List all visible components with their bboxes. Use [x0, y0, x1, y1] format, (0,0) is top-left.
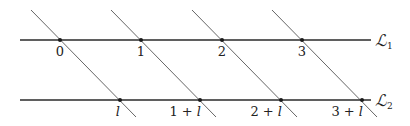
label-L1-subscript: 1	[387, 41, 393, 51]
label-L1: ℒ 1	[375, 31, 393, 51]
label-L2: ℒ 2	[375, 91, 393, 111]
point-2	[220, 38, 224, 42]
point-3	[300, 38, 304, 42]
diagonal-lines	[31, 10, 377, 117]
point-label-3: 3	[298, 44, 306, 59]
point-1	[139, 38, 143, 42]
point-l	[118, 98, 122, 102]
point-label-1-plus-l: 1 + l	[169, 104, 201, 119]
point-1-plus-l	[198, 98, 202, 102]
top-points: 0 1 2 3	[56, 38, 306, 59]
label-L2-name: ℒ	[375, 91, 387, 110]
point-label-2: 2	[218, 44, 226, 59]
point-label-2-plus-l: 2 + l	[250, 104, 282, 119]
lattice-lines-diagram: ℒ 1 ℒ 2 0 1 2 3 l 1 + l 2 + l 3 + l	[0, 0, 410, 126]
point-2-plus-l	[279, 98, 283, 102]
point-label-0: 0	[56, 44, 64, 59]
label-L1-name: ℒ	[375, 31, 387, 50]
point-3-plus-l	[360, 98, 364, 102]
label-L2-subscript: 2	[387, 101, 393, 111]
point-label-3-plus-l: 3 + l	[331, 104, 363, 119]
point-label-l: l	[116, 104, 120, 119]
point-0	[58, 38, 62, 42]
bottom-points: l 1 + l 2 + l 3 + l	[116, 98, 364, 119]
point-label-1: 1	[137, 44, 145, 59]
